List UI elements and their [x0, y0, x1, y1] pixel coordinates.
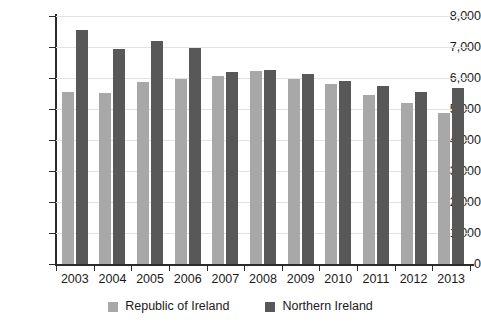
- bar-group: [401, 16, 427, 264]
- bar-republic-of-ireland-2007: [212, 76, 224, 264]
- bar-group: [212, 16, 238, 264]
- x-axis-tick-mark: [207, 266, 208, 271]
- x-axis-label-2013: 2013: [428, 272, 474, 286]
- bar-chart: 8,0007,0006,0005,0004,0003,0002,0001,000…: [0, 0, 481, 330]
- x-axis-tick-mark: [282, 266, 283, 271]
- legend-item: Northern Ireland: [265, 300, 372, 313]
- bar-northern-ireland-2004: [113, 49, 125, 264]
- bar-republic-of-ireland-2005: [137, 82, 149, 264]
- bar-northern-ireland-2007: [226, 72, 238, 264]
- bar-republic-of-ireland-2008: [250, 71, 262, 264]
- x-axis-tick-mark: [319, 266, 320, 271]
- bar-group: [363, 16, 389, 264]
- legend-label: Northern Ireland: [282, 300, 372, 313]
- legend-label: Republic of Ireland: [125, 300, 229, 313]
- legend-swatch-northern-ireland: [265, 302, 275, 312]
- x-axis-tick-mark: [131, 266, 132, 271]
- bar-group: [288, 16, 314, 264]
- bar-group: [62, 16, 88, 264]
- bar-group: [175, 16, 201, 264]
- bar-northern-ireland-2010: [339, 81, 351, 264]
- x-axis-tick-mark: [94, 266, 95, 271]
- bar-northern-ireland-2009: [302, 74, 314, 264]
- bar-northern-ireland-2013: [452, 88, 464, 264]
- chart-legend: Republic of IrelandNorthern Ireland: [0, 300, 481, 313]
- bar-group: [250, 16, 276, 264]
- bar-republic-of-ireland-2004: [99, 93, 111, 264]
- x-axis-tick-mark: [395, 266, 396, 271]
- legend-swatch-republic-of-ireland: [108, 302, 118, 312]
- bar-republic-of-ireland-2013: [438, 113, 450, 264]
- plot-area: [56, 16, 470, 264]
- bar-northern-ireland-2011: [377, 86, 389, 264]
- x-axis-tick-mark: [169, 266, 170, 271]
- bar-northern-ireland-2003: [76, 30, 88, 264]
- bar-republic-of-ireland-2009: [288, 79, 300, 264]
- bar-group: [438, 16, 464, 264]
- x-axis-tick-mark: [244, 266, 245, 271]
- bar-northern-ireland-2008: [264, 70, 276, 264]
- bar-northern-ireland-2005: [151, 41, 163, 264]
- bar-group: [325, 16, 351, 264]
- bar-group: [99, 16, 125, 264]
- x-axis-tick-mark: [56, 266, 57, 271]
- x-axis-tick-mark: [470, 266, 471, 271]
- x-axis-tick-mark: [432, 266, 433, 271]
- bar-republic-of-ireland-2012: [401, 103, 413, 264]
- bar-republic-of-ireland-2011: [363, 95, 375, 264]
- bar-republic-of-ireland-2006: [175, 79, 187, 264]
- bar-group: [137, 16, 163, 264]
- x-axis-tick-mark: [357, 266, 358, 271]
- bar-northern-ireland-2012: [415, 92, 427, 264]
- bar-northern-ireland-2006: [189, 48, 201, 264]
- bar-republic-of-ireland-2010: [325, 84, 337, 264]
- legend-item: Republic of Ireland: [108, 300, 229, 313]
- x-axis-line: [55, 264, 474, 266]
- bar-republic-of-ireland-2003: [62, 92, 74, 264]
